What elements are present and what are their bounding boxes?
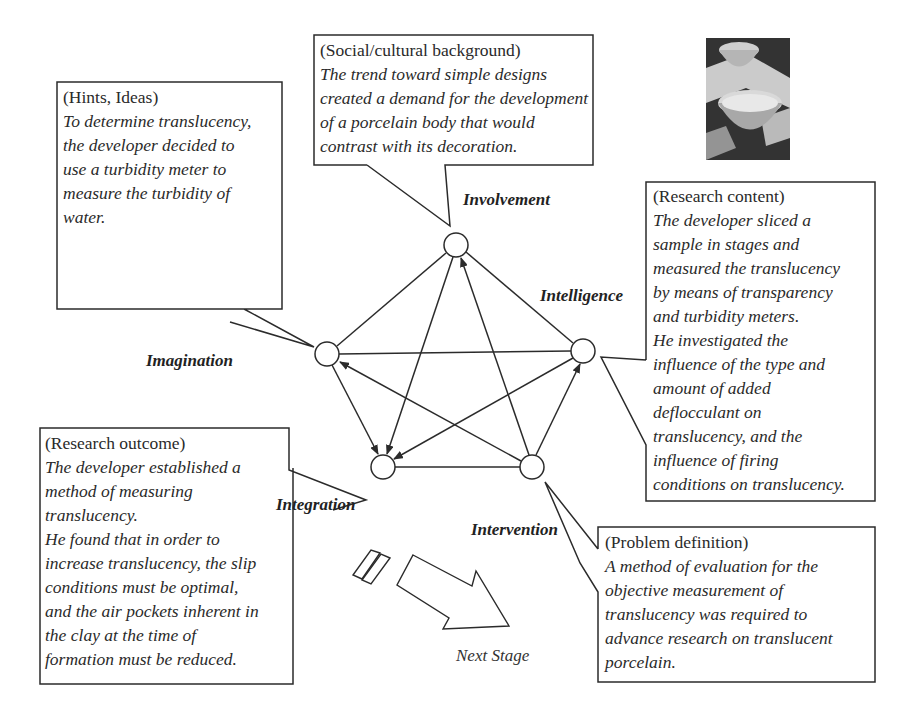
callout-heading: (Research content) xyxy=(653,184,875,208)
label-involvement: Involvement xyxy=(463,190,550,210)
callout-heading: (Problem definition) xyxy=(605,530,875,554)
callout-body: A method of evaluation for the objective… xyxy=(605,554,875,674)
node-imagination xyxy=(315,342,339,366)
node-involvement xyxy=(444,233,468,257)
label-imagination: Imagination xyxy=(146,351,233,371)
label-intelligence: Intelligence xyxy=(540,286,623,306)
node-intervention xyxy=(520,455,544,479)
photo-graphic xyxy=(706,38,790,160)
callout-research-content: (Research content) The developer sliced … xyxy=(653,184,875,496)
callout-heading: (Social/cultural background) xyxy=(320,38,592,62)
callout-heading: (Hints, Ideas) xyxy=(63,85,281,109)
network-nodes xyxy=(315,233,595,479)
porcelain-bowls-photo xyxy=(706,38,790,160)
node-intelligence xyxy=(571,339,595,363)
label-integration: Integration xyxy=(276,495,355,515)
callout-social-cultural-background: (Social/cultural background) The trend t… xyxy=(320,38,592,158)
callout-body: The developer established a method of me… xyxy=(45,455,291,671)
callout-research-outcome: (Research outcome) The developer establi… xyxy=(45,431,291,671)
callout-body: To determine translucency, the developer… xyxy=(63,109,281,229)
callout-body: The trend toward simple designs created … xyxy=(320,62,592,158)
callout-heading: (Research outcome) xyxy=(45,431,291,455)
callout-problem-definition: (Problem definition) A method of evaluat… xyxy=(605,530,875,674)
network-edges xyxy=(337,252,573,467)
node-integration xyxy=(371,455,395,479)
callout-hints-ideas: (Hints, Ideas) To determine translucency… xyxy=(63,85,281,229)
next-stage-arrow-icon xyxy=(353,550,509,629)
diagram-canvas: (Social/cultural background) The trend t… xyxy=(0,0,914,720)
next-stage-label: Next Stage xyxy=(456,646,529,666)
label-intervention: Intervention xyxy=(471,520,558,540)
callout-body: The developer sliced a sample in stages … xyxy=(653,208,875,496)
